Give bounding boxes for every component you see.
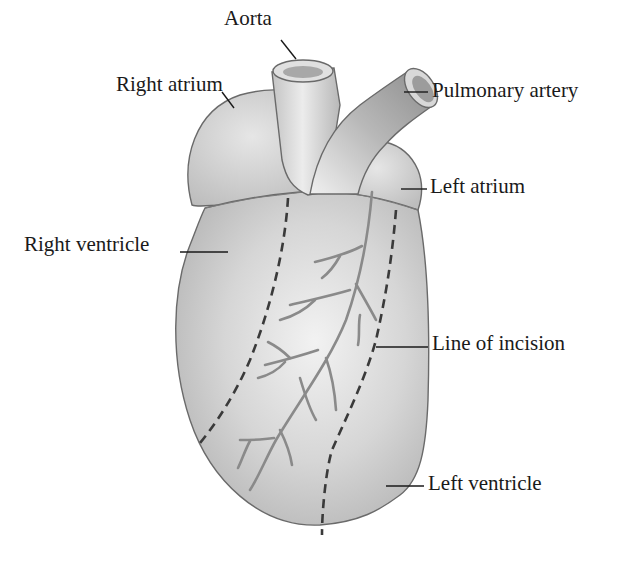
heart-diagram: Aorta Pulmonary artery Right atrium Left…: [0, 0, 630, 562]
label-pulmonary-artery: Pulmonary artery: [432, 80, 578, 101]
label-left-ventricle: Left ventricle: [428, 473, 542, 494]
label-right-atrium: Right atrium: [116, 74, 223, 95]
label-left-atrium: Left atrium: [430, 176, 525, 197]
label-aorta: Aorta: [224, 8, 272, 29]
label-right-ventricle: Right ventricle: [24, 234, 149, 255]
label-line-of-incision: Line of incision: [432, 333, 565, 354]
ventricles-shape: [176, 192, 429, 526]
